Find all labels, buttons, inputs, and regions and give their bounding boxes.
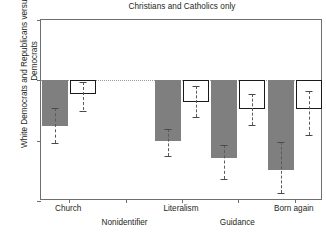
y-axis-tick xyxy=(37,20,41,21)
x-axis-tick-label: Nonidentifier xyxy=(102,218,148,227)
error-bar-cap xyxy=(52,108,59,109)
error-bar-cap xyxy=(193,117,200,118)
x-axis-tick-label: Literalism xyxy=(163,204,198,213)
error-bar xyxy=(252,94,253,125)
x-axis-tick-label: Church xyxy=(55,204,81,213)
error-bar xyxy=(224,145,225,179)
error-bar-cap xyxy=(80,111,87,112)
x-axis-tick xyxy=(182,199,183,203)
y-axis-tick xyxy=(37,201,41,202)
x-axis-tick xyxy=(69,199,70,203)
error-bar xyxy=(196,86,197,116)
y-axis-tick xyxy=(37,141,41,142)
error-bar xyxy=(168,129,169,157)
error-bar-cap xyxy=(305,135,312,136)
error-bar-cap xyxy=(277,142,284,143)
error-bar-cap xyxy=(52,143,59,144)
error-bar-cap xyxy=(165,129,172,130)
y-axis-tick xyxy=(37,80,41,81)
x-axis-tick-label: Born again xyxy=(274,204,314,213)
error-bar-cap xyxy=(221,179,228,180)
error-bar-cap xyxy=(277,193,284,194)
error-bar-cap xyxy=(80,82,87,83)
plot-area: .250-.25-.5 xyxy=(40,19,322,200)
y-axis-title-text: White Democrats and Republicans versus b… xyxy=(20,0,41,151)
error-bar-cap xyxy=(221,145,228,146)
x-axis-tick xyxy=(126,199,127,203)
x-axis-tick xyxy=(295,199,296,203)
x-axis-tick xyxy=(238,199,239,203)
error-bar xyxy=(55,108,56,143)
error-bar-cap xyxy=(193,86,200,87)
error-bar-cap xyxy=(165,156,172,157)
error-bar xyxy=(281,142,282,193)
error-bar-cap xyxy=(249,94,256,95)
error-bar xyxy=(83,82,84,111)
x-axis-tick-label: Guidance xyxy=(220,218,255,227)
error-bar-cap xyxy=(249,125,256,126)
error-bar xyxy=(309,91,310,134)
chart-container: Christians and Catholics only White Demo… xyxy=(0,0,326,241)
chart-title: Christians and Catholics only xyxy=(38,2,326,11)
error-bar-cap xyxy=(305,91,312,92)
